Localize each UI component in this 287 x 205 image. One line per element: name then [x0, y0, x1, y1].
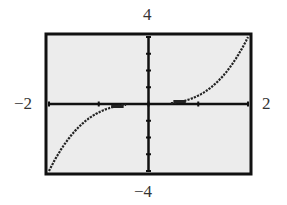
graph-window — [0, 0, 287, 205]
